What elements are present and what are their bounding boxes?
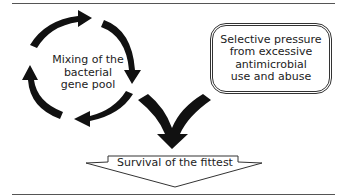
survival-of-fittest-label: Survival of the fittest (115, 157, 235, 170)
gene-pool-line-1: Mixing of the (38, 54, 138, 67)
pressure-line-2: from excessive (215, 46, 327, 59)
pressure-line-4: use and abuse (215, 71, 327, 84)
selective-pressure-label: Selective pressure from excessive antimi… (215, 34, 327, 84)
gene-pool-mixing-label: Mixing of the bacterial gene pool (38, 54, 138, 92)
gene-pool-line-3: gene pool (38, 79, 138, 92)
cycle-arrow-top-icon (30, 10, 92, 48)
converging-arrow-icon (138, 94, 211, 149)
selective-pressure-box: Selective pressure from excessive antimi… (210, 23, 332, 94)
cycle-arrow-bottom-icon (74, 91, 133, 127)
